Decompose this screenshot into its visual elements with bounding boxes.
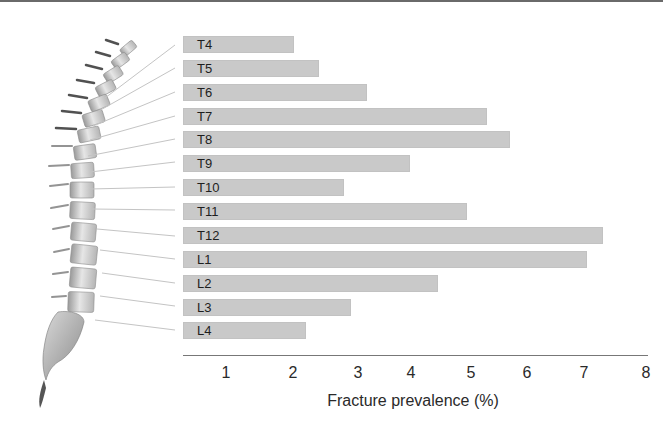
bar-label: L4 <box>197 322 211 339</box>
bar-l1: L1 <box>183 251 587 268</box>
x-axis-title: Fracture prevalence (%) <box>327 392 499 410</box>
bar-l4: L4 <box>183 322 306 339</box>
bar-t4: T4 <box>183 36 294 53</box>
bar-label: L2 <box>197 275 211 292</box>
x-tick-label: 1 <box>222 364 231 382</box>
x-tick-label: 5 <box>467 364 476 382</box>
bar-label: L3 <box>197 299 211 316</box>
bar-label: T9 <box>197 155 212 172</box>
x-tick-label: 6 <box>523 364 532 382</box>
bar-label: T11 <box>197 203 218 220</box>
bar-l2: L2 <box>183 275 438 292</box>
x-tick-label: 7 <box>580 364 589 382</box>
bar-label: T4 <box>197 36 212 53</box>
bar-t11: T11 <box>183 203 467 220</box>
bar-label: T6 <box>197 84 212 101</box>
bar-t8: T8 <box>183 131 510 148</box>
bar-label: L1 <box>197 251 211 268</box>
bar-t12: T12 <box>183 227 603 244</box>
bar-label: T8 <box>197 131 212 148</box>
x-tick-label: 2 <box>289 364 298 382</box>
bar-t6: T6 <box>183 84 367 101</box>
bar-l3: L3 <box>183 299 351 316</box>
bar-label: T5 <box>197 60 212 77</box>
x-tick-label: 3 <box>354 364 363 382</box>
x-axis-line <box>183 355 648 356</box>
bar-label: T7 <box>197 108 212 125</box>
bar-t7: T7 <box>183 108 487 125</box>
bar-label: T10 <box>197 179 219 196</box>
bar-t5: T5 <box>183 60 319 77</box>
bar-t9: T9 <box>183 155 410 172</box>
bar-t10: T10 <box>183 179 344 196</box>
x-tick-label: 8 <box>642 364 651 382</box>
x-tick-label: 4 <box>407 364 416 382</box>
bar-label: T12 <box>197 227 219 244</box>
